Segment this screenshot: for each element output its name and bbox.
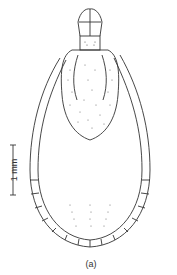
figure-caption: (a) (86, 259, 97, 269)
scutum (61, 50, 118, 140)
specimen-drawing (0, 0, 177, 275)
scale-bar-label: 1 mm (9, 159, 19, 182)
basis-capituli (80, 36, 100, 50)
